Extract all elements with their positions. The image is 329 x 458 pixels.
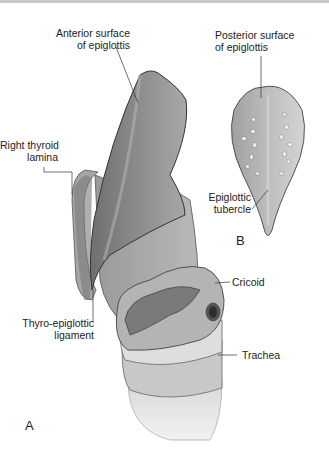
panel-label-a: A [25,418,34,433]
label-line: Posterior surface [215,29,294,41]
label-epiglottic-tubercle: Epiglottic tubercle [193,191,251,215]
label-cricoid: Cricoid [232,276,265,288]
label-line: Epiglottic [193,191,251,203]
label-trachea: Trachea [242,349,280,361]
label-line: Thyro-epiglottic [0,317,94,329]
panel-label-b: B [236,233,245,248]
label-line: Anterior surface [30,27,130,39]
label-line: lamina [0,151,58,163]
leader-thyroid-h [44,172,72,195]
label-thyro-epiglottic-ligament: Thyro-epiglottic ligament [0,317,94,341]
label-line: of epiglottis [30,39,130,51]
larynx-illustration [0,0,329,458]
label-right-thyroid-lamina: Right thyroid lamina [0,139,58,163]
label-line: of epiglottis [215,41,294,53]
label-anterior-surface: Anterior surface of epiglottis [30,27,130,51]
label-line: ligament [0,329,94,341]
label-line: Right thyroid [0,139,58,151]
label-line: tubercle [193,203,251,215]
label-posterior-surface: Posterior surface of epiglottis [215,29,294,53]
leader-anterior [116,47,138,103]
